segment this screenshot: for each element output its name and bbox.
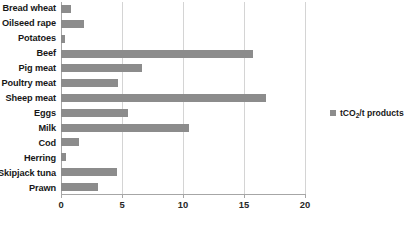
- y-axis-category-label: Skipjack tuna: [0, 168, 58, 178]
- x-axis-tick-marks: [61, 194, 306, 198]
- x-axis-tick-label: 15: [239, 199, 249, 210]
- bar: [61, 138, 79, 146]
- bar: [61, 5, 71, 13]
- bar-row: [61, 150, 305, 164]
- bar: [61, 153, 66, 161]
- bar: [61, 124, 189, 132]
- legend-label: tCO2/t products: [340, 108, 404, 119]
- legend-label-tail: /t products: [359, 108, 403, 118]
- x-axis-tick-labels: 05101520: [0, 199, 400, 213]
- y-axis-category-label: Beef: [36, 48, 58, 58]
- gridline: [305, 2, 306, 194]
- plot-area: [61, 2, 305, 194]
- y-axis-category-label: Herring: [24, 153, 58, 163]
- bar-row: [61, 2, 305, 16]
- bar-row: [61, 179, 305, 193]
- bar: [61, 79, 118, 87]
- x-axis-tick-label: 10: [178, 199, 188, 210]
- y-axis-category-labels: Bread wheatOilseed rapePotatoesBeefPig m…: [0, 0, 58, 196]
- bar-row: [61, 91, 305, 105]
- x-axis-tick-label: 0: [58, 199, 63, 210]
- x-axis-tick-label: 5: [119, 199, 124, 210]
- y-axis-category-label: Sheep meat: [5, 93, 58, 103]
- legend-swatch-icon: [330, 110, 336, 116]
- bar-row: [61, 76, 305, 90]
- x-axis-tick-mark: [61, 194, 62, 198]
- y-axis-category-label: Pig meat: [19, 63, 59, 73]
- bar: [61, 168, 117, 176]
- bar: [61, 109, 128, 117]
- bar: [61, 50, 253, 58]
- legend: tCO2/t products: [330, 108, 404, 119]
- bar: [61, 20, 84, 28]
- bar-row: [61, 47, 305, 61]
- bar-row: [61, 120, 305, 134]
- bar: [61, 183, 98, 191]
- bar: [61, 64, 142, 72]
- y-axis-category-label: Oilseed rape: [2, 18, 58, 28]
- bar-row: [61, 165, 305, 179]
- y-axis-category-label: Potatoes: [18, 33, 58, 43]
- y-axis-category-label: Milk: [39, 123, 58, 133]
- x-axis-tick-mark: [244, 194, 245, 198]
- bar-row: [61, 61, 305, 75]
- bar-row: [61, 106, 305, 120]
- x-axis-tick-mark: [122, 194, 123, 198]
- y-axis-category-label: Eggs: [34, 108, 58, 118]
- y-axis-category-label: Cod: [38, 138, 58, 148]
- bar: [61, 35, 65, 43]
- y-axis-category-label: Bread wheat: [2, 3, 58, 13]
- y-axis-category-label: Prawn: [29, 183, 58, 193]
- bar-row: [61, 17, 305, 31]
- legend-label-main: tCO: [340, 108, 356, 118]
- bar: [61, 94, 266, 102]
- x-axis-tick-mark: [305, 194, 306, 198]
- x-axis-tick-label: 20: [300, 199, 310, 210]
- y-axis-category-label: Poultry meat: [2, 78, 58, 88]
- bar-row: [61, 135, 305, 149]
- x-axis-tick-mark: [183, 194, 184, 198]
- bar-series: [61, 2, 305, 194]
- bar-row: [61, 32, 305, 46]
